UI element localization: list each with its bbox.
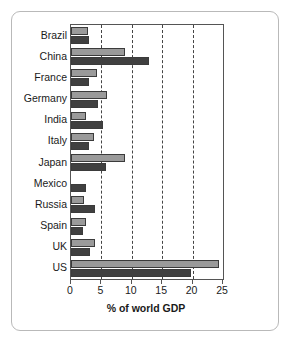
category-label-japan: Japan	[13, 156, 67, 168]
bar-china-series-a	[71, 48, 125, 56]
category-label-us: US	[13, 261, 67, 273]
bar-uk-series-a	[71, 239, 95, 247]
bar-group	[71, 67, 223, 88]
bar-group	[71, 237, 223, 258]
x-tick-label-0: 0	[67, 284, 73, 296]
bar-group	[71, 173, 223, 194]
category-label-spain: Spain	[13, 219, 67, 231]
bar-japan-series-b	[71, 163, 106, 171]
bar-spain-series-b	[71, 227, 83, 235]
bar-mexico-series-b	[71, 184, 86, 192]
bar-group	[71, 46, 223, 67]
gdp-bar-chart: BrazilChinaFranceGermanyIndiaItalyJapanM…	[12, 12, 280, 332]
category-label-france: France	[13, 71, 67, 83]
x-tick-label-20: 20	[186, 284, 198, 296]
bar-group	[71, 152, 223, 173]
x-axis-ticks: 0510152025	[70, 280, 224, 296]
y-axis-category-labels: BrazilChinaFranceGermanyIndiaItalyJapanM…	[12, 25, 67, 279]
bar-group	[71, 25, 223, 46]
x-tick-label-5: 5	[97, 284, 103, 296]
bar-group	[71, 216, 223, 237]
bars-layer	[71, 25, 223, 279]
bar-group	[71, 89, 223, 110]
figure-frame: BrazilChinaFranceGermanyIndiaItalyJapanM…	[11, 11, 279, 331]
bar-russia-series-a	[71, 196, 84, 204]
bar-brazil-series-b	[71, 36, 89, 44]
bar-us-series-a	[71, 260, 219, 268]
x-tick-label-15: 15	[155, 284, 167, 296]
category-label-brazil: Brazil	[13, 29, 67, 41]
x-tick-label-10: 10	[125, 284, 137, 296]
bar-france-series-a	[71, 69, 97, 77]
bar-india-series-a	[71, 112, 86, 120]
category-label-germany: Germany	[13, 92, 67, 104]
x-axis-title: % of world GDP	[12, 302, 280, 314]
category-label-uk: UK	[13, 240, 67, 252]
category-label-mexico: Mexico	[13, 177, 67, 189]
bar-us-series-b	[71, 269, 191, 277]
category-label-italy: Italy	[13, 134, 67, 146]
category-label-china: China	[13, 50, 67, 62]
bar-germany-series-b	[71, 100, 98, 108]
category-label-india: India	[13, 113, 67, 125]
bar-group	[71, 131, 223, 152]
bar-group	[71, 194, 223, 215]
bar-group	[71, 258, 223, 279]
bar-italy-series-b	[71, 142, 89, 150]
bar-japan-series-a	[71, 154, 125, 162]
x-tick-label-25: 25	[216, 284, 228, 296]
bar-uk-series-b	[71, 248, 90, 256]
bar-russia-series-b	[71, 205, 95, 213]
bar-india-series-b	[71, 121, 103, 129]
bar-germany-series-a	[71, 91, 107, 99]
bar-italy-series-a	[71, 133, 94, 141]
bar-group	[71, 110, 223, 131]
bar-france-series-b	[71, 78, 89, 86]
category-label-russia: Russia	[13, 198, 67, 210]
bar-china-series-b	[71, 57, 149, 65]
bar-spain-series-a	[71, 218, 86, 226]
bar-brazil-series-a	[71, 27, 88, 35]
